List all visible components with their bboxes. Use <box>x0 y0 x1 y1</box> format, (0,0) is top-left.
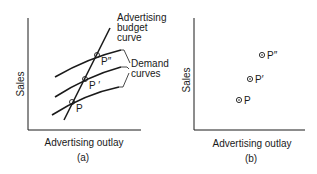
panel-a-y-axis-label: Sales <box>15 71 26 96</box>
point-p-prime-label-b: P′ <box>255 74 264 85</box>
point-p-double-prime-label: P″ <box>101 56 112 67</box>
point-p-label: P <box>76 103 83 114</box>
diagram-canvas: P P ′ P″ Advertising budget curve Demand… <box>0 0 317 174</box>
panel-b-y-axis-label: Sales <box>181 67 192 92</box>
advertising-budget-curve <box>64 28 110 120</box>
panel-a-caption: (a) <box>77 152 89 163</box>
panel-b-x-axis-label: Advertising outlay <box>213 138 292 149</box>
point-p-label-b: P <box>244 95 251 106</box>
budget-curve-label-line3: curve <box>117 32 142 43</box>
demand-curves-bracket <box>119 50 130 87</box>
panel-b: P P′ P″ Sales Advertising outlay (b) <box>181 18 305 164</box>
panel-a: P P ′ P″ Advertising budget curve Demand… <box>15 12 169 163</box>
point-p-double-prime-dot-b <box>261 54 263 56</box>
point-p-double-prime-label-b: P″ <box>267 50 278 61</box>
demand-curve-bottom <box>52 87 119 115</box>
point-p-dot-b <box>238 99 240 101</box>
point-p-prime-dot-b <box>249 78 251 80</box>
panel-a-x-axis-label: Advertising outlay <box>45 137 124 148</box>
point-p-prime-label: P ′ <box>89 80 100 91</box>
panel-b-caption: (b) <box>245 153 257 164</box>
demand-curves-label-line2: curves <box>131 68 160 79</box>
